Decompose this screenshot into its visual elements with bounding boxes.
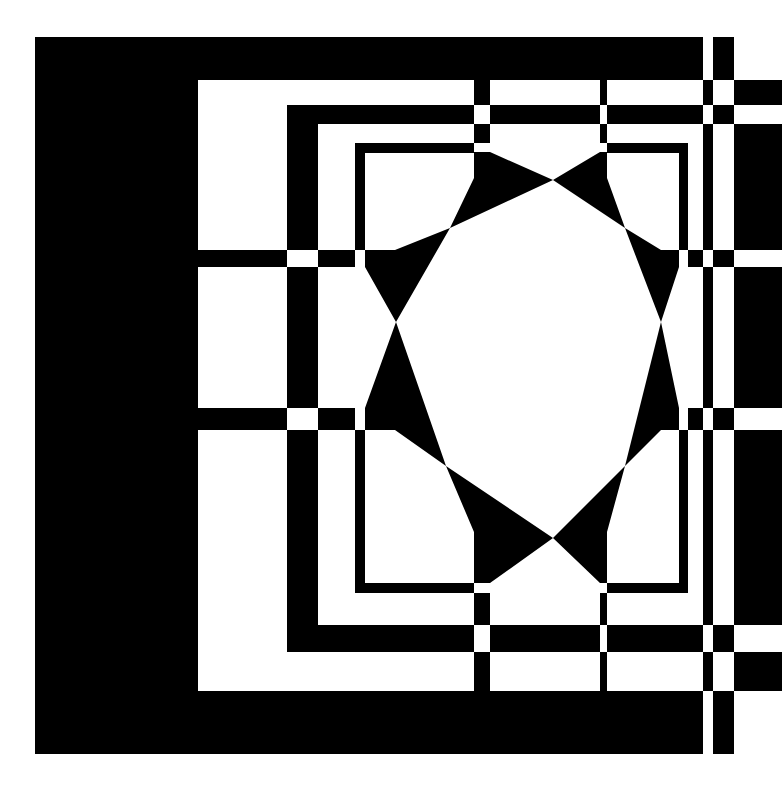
v-bar-703-c [703,267,713,408]
h-band-408-a [198,408,287,430]
v-bar-703-d [703,430,713,625]
v-bar-600-top [600,80,607,105]
sq-frame3-left-b [355,430,365,593]
h-band-250-d [713,250,734,267]
right-check-b [713,625,734,652]
sq-frame3-top-b [607,143,688,153]
sq-frame2-bottom-b [490,625,600,652]
v-bar-703-e [703,652,713,691]
right-block-c [734,267,782,408]
v-bar-474-top [474,80,490,105]
v-bar-474-mid [474,124,490,143]
right-check-a [713,105,734,124]
v-bar-600-bot2 [600,652,607,691]
sq-frame2-left-c [287,430,318,652]
sq-frame3-top-a [355,143,474,153]
sq-frame2-bottom-c [607,625,703,652]
h-band-408-b [318,408,355,430]
sq-frame3-left-a [355,143,365,250]
right-block-d [734,430,782,625]
right-block-b [734,124,782,250]
right-block-e [734,652,782,691]
right-strip-top-a [713,37,734,80]
v-bar-474-bot2 [474,652,490,691]
h-band-250-a [198,250,287,267]
sq-frame2-bottom-a [287,625,474,652]
sq-frame3-right-a [679,143,688,250]
right-strip-bottom-a [713,691,734,754]
sq-frame3-right-b [679,430,688,593]
h-band-408-d [713,408,734,430]
v-bar-600-mid [600,124,607,143]
sq-frame3-bottom-a [355,583,474,593]
outer-frame-bottom [35,691,703,754]
v-bar-474-bot [474,593,490,625]
h-band-408-c [688,408,703,430]
v-bar-703-b [703,124,713,250]
outer-frame-left [35,37,198,754]
op-art-canvas [0,0,782,789]
sq-frame2-left-b [287,267,318,408]
right-block-a [734,80,782,105]
sq-frame3-bottom-b [607,583,688,593]
h-band-250-b [318,250,355,267]
sq-frame2-top-b [490,105,600,124]
sq-frame2-left-a [287,105,318,250]
v-bar-703-a [703,80,713,105]
v-bar-600-bot [600,593,607,625]
h-band-250-c [688,250,703,267]
sq-frame2-top-c [607,105,703,124]
